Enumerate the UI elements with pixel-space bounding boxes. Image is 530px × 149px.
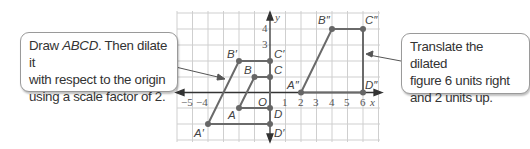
- callout-text: Translate the dilated: [410, 39, 483, 71]
- y-tick-label: 4: [262, 22, 268, 34]
- vertex-label-C: C: [274, 64, 283, 76]
- y-axis-label: y: [274, 11, 280, 23]
- callout-text-italic: ABCD: [62, 38, 98, 53]
- x-tick-label: 1: [282, 96, 288, 108]
- y-tick-label: 3: [262, 38, 268, 50]
- callout-text: and 2 units up.: [410, 90, 493, 105]
- x-tick-label: 5: [344, 96, 350, 108]
- x-tick-label: 6: [360, 96, 366, 108]
- x-tick-label: −5: [181, 96, 193, 108]
- vertex-label-A: A: [227, 109, 236, 121]
- vertex-label-D: D: [274, 108, 282, 120]
- vertex-label-C-prime: C′: [274, 48, 285, 60]
- origin-label: O: [258, 96, 267, 108]
- callout-text: with respect to the origin: [29, 72, 165, 87]
- callout-text: using a scale factor of 2.: [29, 89, 165, 104]
- vertex-label-B-prime: B′: [227, 48, 238, 60]
- vertex-label-A-double-prime: A″: [286, 79, 300, 91]
- vertex-label-B-double-prime: B″: [318, 14, 331, 26]
- instruction-callout-translate: Translate the dilated figure 6 units rig…: [401, 33, 530, 94]
- callout-text: Draw: [29, 38, 62, 53]
- vertex-label-A-prime: A′: [193, 127, 205, 139]
- callout-text: figure 6 units right: [410, 73, 510, 88]
- x-tick-label: 2: [298, 96, 304, 108]
- x-tick-label: 4: [329, 96, 335, 108]
- x-tick-label: −4: [196, 96, 208, 108]
- vertex-label-D-prime: D′: [274, 127, 285, 139]
- vertex-label-C-double-prime: C″: [365, 14, 378, 26]
- vertex-label-D-double-prime: D″: [365, 79, 378, 91]
- x-axis-label: x: [369, 96, 375, 108]
- instruction-callout-dilate: Draw ABCD. Then dilate it with respect t…: [20, 32, 178, 92]
- x-tick-label: 3: [313, 96, 319, 108]
- vertex-label-B: B: [244, 64, 252, 76]
